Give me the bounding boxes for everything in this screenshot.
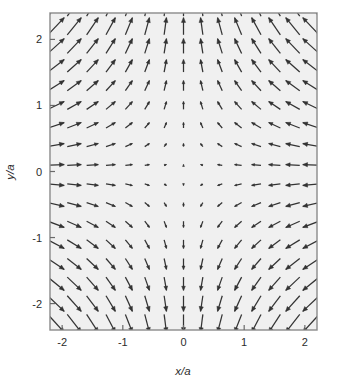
arrow-head xyxy=(129,0,133,2)
arrow-head xyxy=(94,0,98,2)
x-tick-label: -2 xyxy=(57,336,67,348)
arrow-head xyxy=(111,0,115,2)
y-tick-label: 1 xyxy=(36,99,42,111)
y-axis-label: y/a xyxy=(4,164,16,180)
arrow-head xyxy=(286,0,290,2)
arrow-head xyxy=(146,0,150,2)
arrow-head xyxy=(234,0,238,2)
x-tick-label: 1 xyxy=(241,336,247,348)
arrow-head xyxy=(269,0,273,2)
figure-container: -2-1012 210-1-2 x/a y/a xyxy=(0,0,341,384)
x-tick-label: -1 xyxy=(118,336,128,348)
x-axis-label: x/a xyxy=(174,365,190,377)
arrow-head xyxy=(303,0,308,2)
vector-field-plot: -2-1012 210-1-2 x/a y/a xyxy=(0,0,341,384)
x-tick-label: 0 xyxy=(180,336,186,348)
arrow-head xyxy=(164,0,168,2)
y-tick-label: 2 xyxy=(36,33,42,45)
y-tick-label: -2 xyxy=(32,298,42,310)
arrow-head xyxy=(252,0,256,2)
x-tick-label: 2 xyxy=(302,336,308,348)
y-tick-label: -1 xyxy=(32,232,42,244)
arrow-head xyxy=(181,0,185,1)
y-tick-label: 0 xyxy=(36,166,42,178)
arrow-head xyxy=(217,0,221,2)
arrow-head xyxy=(77,0,81,2)
arrow-head xyxy=(199,0,203,2)
arrow-head xyxy=(60,0,65,2)
